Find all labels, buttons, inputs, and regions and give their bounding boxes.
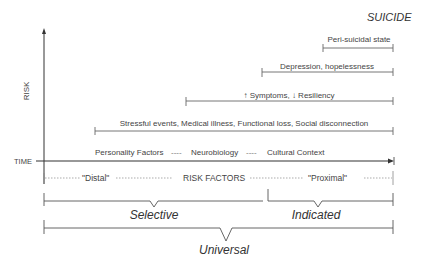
- risk-axis-label: RISK: [23, 82, 31, 101]
- bar-label-symptoms: ↑ Symptoms, ↓ Resiliency: [243, 92, 334, 100]
- selective-label: Selective: [130, 209, 179, 221]
- distal-label: "Distal": [82, 174, 109, 183]
- proximal-label: "Proximal": [308, 174, 347, 183]
- factor-neurobiology: Neurobiology: [191, 149, 238, 157]
- factor-separator: ----: [171, 149, 182, 157]
- risk-axis-arrow-icon: [42, 28, 46, 34]
- time-axis-label: TIME: [14, 158, 32, 166]
- suicide-title: SUICIDE: [367, 12, 412, 23]
- factor-separator: ----: [246, 149, 257, 157]
- time-axis-arrow-icon: [388, 159, 394, 164]
- bar-label-stressful-events: Stressful events, Medical illness, Funct…: [120, 120, 369, 128]
- bar-label-peri-suicidal: Peri-suicidal state: [327, 36, 390, 44]
- universal-label: Universal: [199, 244, 249, 256]
- selective-indicated-bracket: [44, 189, 393, 207]
- universal-bracket: [44, 220, 393, 241]
- factor-cultural-context: Cultural Context: [267, 149, 324, 157]
- factor-personality: Personality Factors: [95, 149, 163, 157]
- risk-factors-label: RISK FACTORS: [183, 174, 245, 183]
- bar-label-depression: Depression, hopelessness: [280, 63, 374, 71]
- indicated-label: Indicated: [292, 209, 341, 221]
